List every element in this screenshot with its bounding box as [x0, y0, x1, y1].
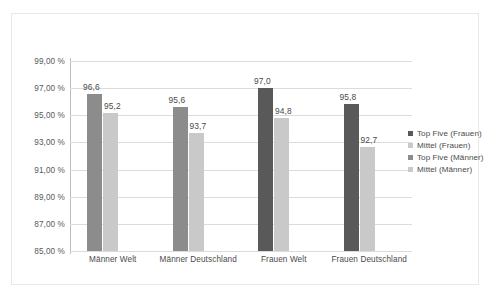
bar-value-label: 97,0 [254, 76, 271, 86]
chart-frame: 99,00 %97,00 %95,00 %93,00 %91,00 %89,00… [11, 13, 479, 285]
legend-swatch-icon [408, 155, 413, 160]
legend-item[interactable]: Top Five (Frauen) [408, 129, 484, 139]
y-axis-tick-label: 89,00 % [34, 192, 65, 201]
legend-item-label: Top Five (Männer) [417, 153, 484, 162]
legend-swatch-icon [408, 167, 413, 172]
legend-item-label: Top Five (Frauen) [417, 129, 482, 138]
bar[interactable]: 92,7 [360, 147, 375, 252]
legend-swatch-icon [408, 143, 413, 148]
bar-group: 97,094,8 [241, 61, 327, 251]
plot-area: 99,00 %97,00 %95,00 %93,00 %91,00 %89,00… [70, 61, 412, 251]
chart-legend: Top Five (Frauen)Mittel (Frauen)Top Five… [408, 129, 484, 176]
y-axis-tick-label: 91,00 % [34, 165, 65, 174]
bar-value-label: 95,2 [104, 101, 121, 111]
bar-group: 95,892,7 [327, 61, 413, 251]
legend-item-label: Mittel (Frauen) [417, 141, 470, 150]
x-axis-category-label: Frauen Deutschland [327, 255, 413, 264]
y-axis-tick-label: 93,00 % [34, 138, 65, 147]
x-axis-category-label: Frauen Welt [241, 255, 327, 264]
legend-item[interactable]: Top Five (Männer) [408, 153, 484, 163]
legend-item[interactable]: Mittel (Frauen) [408, 141, 484, 151]
bar-value-label: 94,8 [275, 106, 292, 116]
bar-pair: 95,892,7 [344, 61, 375, 251]
bar-value-label: 95,8 [340, 92, 357, 102]
bar[interactable]: 95,6 [173, 107, 188, 251]
bar[interactable]: 93,7 [189, 133, 204, 251]
x-axis-category-label: Männer Deutschland [156, 255, 242, 264]
bar-value-label: 93,7 [190, 121, 207, 131]
x-axis-category-label: Männer Welt [70, 255, 156, 264]
bar-pair: 95,693,7 [173, 61, 204, 251]
y-axis-tick-label: 97,00 % [34, 84, 65, 93]
y-axis-tick-label: 95,00 % [34, 111, 65, 120]
legend-swatch-icon [408, 131, 413, 136]
bar[interactable]: 95,2 [103, 113, 118, 251]
bar-pair: 96,695,2 [87, 61, 118, 251]
bar-value-label: 92,7 [361, 135, 378, 145]
bar-group: 96,695,2 [70, 61, 156, 251]
bar-value-label: 95,6 [169, 95, 186, 105]
y-axis-tick-label: 99,00 % [34, 57, 65, 66]
bar[interactable]: 95,8 [344, 104, 359, 251]
bar[interactable]: 97,0 [258, 88, 273, 251]
bar[interactable]: 96,6 [87, 94, 102, 251]
bar[interactable]: 94,8 [274, 118, 289, 251]
y-axis-tick-label: 85,00 % [34, 247, 65, 256]
bar-group: 95,693,7 [156, 61, 242, 251]
y-axis-tick-label: 87,00 % [34, 219, 65, 228]
gridline: 85,00 % [70, 251, 412, 252]
legend-item-label: Mittel (Männer) [417, 165, 472, 174]
bar-pair: 97,094,8 [258, 61, 289, 251]
legend-item[interactable]: Mittel (Männer) [408, 164, 484, 174]
bar-value-label: 96,6 [83, 82, 100, 92]
